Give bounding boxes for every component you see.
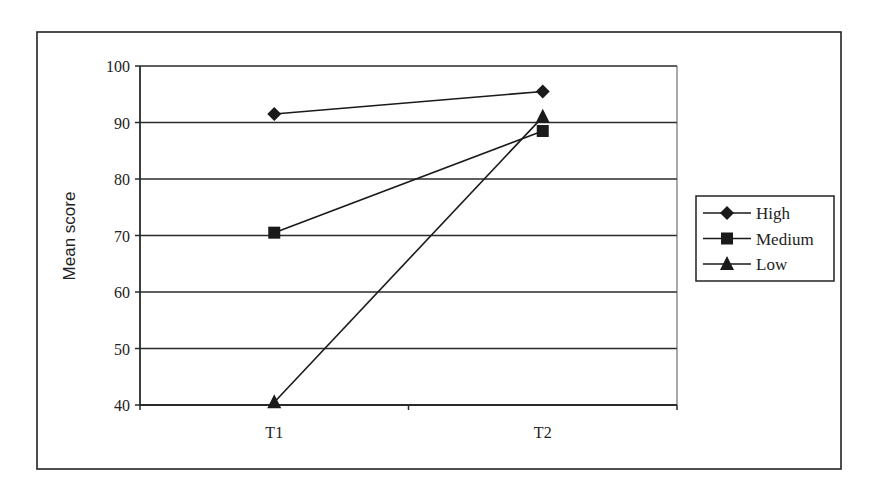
legend-label: High	[756, 204, 791, 223]
y-axis-label: Mean score	[60, 192, 79, 281]
x-tick-label: T1	[265, 424, 283, 441]
legend-label: Medium	[756, 230, 814, 249]
y-tick-label: 90	[114, 115, 130, 132]
square-marker-icon	[537, 125, 549, 137]
y-tick-label: 50	[114, 341, 130, 358]
y-tick-label: 60	[114, 284, 130, 301]
square-marker-icon	[721, 233, 733, 245]
legend: HighMediumLow	[696, 196, 834, 281]
legend-label: Low	[756, 255, 788, 274]
y-tick-label: 100	[106, 58, 130, 75]
chart: 405060708090100 T1T2 Mean score HighMedi…	[0, 0, 879, 498]
y-tick-label: 40	[114, 397, 130, 414]
y-tick-label: 70	[114, 228, 130, 245]
square-marker-icon	[268, 227, 280, 239]
x-tick-label: T2	[534, 424, 552, 441]
y-tick-label: 80	[114, 171, 130, 188]
